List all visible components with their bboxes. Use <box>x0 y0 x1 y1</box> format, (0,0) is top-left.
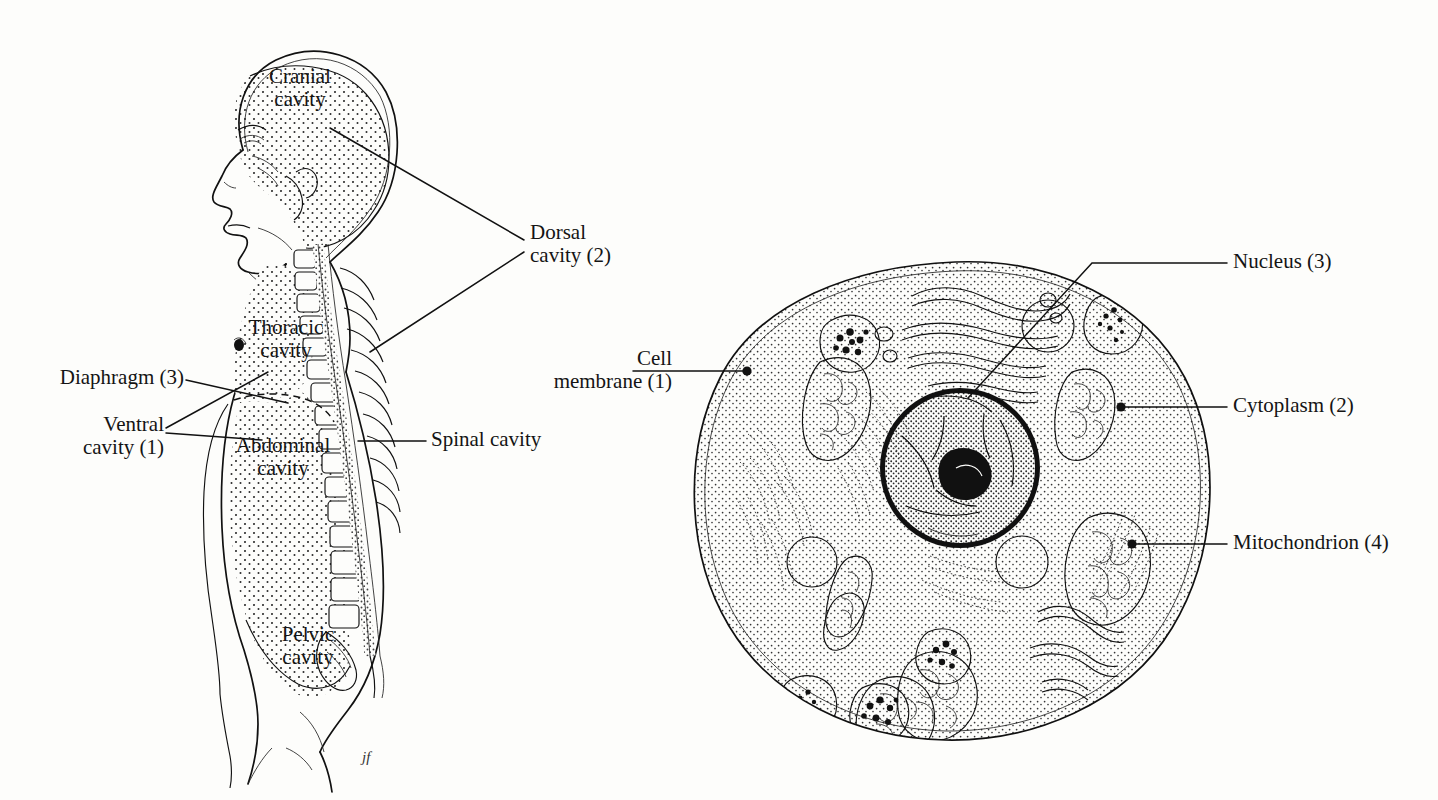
label-nucleus: Nucleus (3) <box>1233 249 1332 273</box>
pelvic-cavity-label-line2: cavity <box>282 645 334 669</box>
cranial-cavity-label-line2: cavity <box>274 87 326 111</box>
thoracic-cavity-label-line2: cavity <box>260 338 312 362</box>
ventral-cavity-label-line1: Ventral <box>103 412 164 436</box>
label-cranial-cavity: Cranial cavity <box>269 64 331 111</box>
thoracic-cavity-label-line1: Thoracic <box>249 315 324 339</box>
diagram-canvas: jf Cranial cavity <box>0 0 1438 800</box>
mitochondrion-anchor-dot <box>1127 539 1136 548</box>
cell-membrane-label-line1: Cell <box>637 346 672 370</box>
diaphragm-label: Diaphragm (3) <box>60 365 184 389</box>
ventral-cavity-label-line2: cavity (1) <box>83 435 164 459</box>
abdominal-cavity-label-line1: Abdominal <box>236 433 331 457</box>
abdominal-cavity-label-line2: cavity <box>257 456 309 480</box>
mitochondrion-label: Mitochondrion (4) <box>1233 530 1389 554</box>
cytoplasm-anchor-dot <box>1116 402 1125 411</box>
dorsal-cavity-label-line2: cavity (2) <box>530 243 611 267</box>
cranial-cavity-label-line1: Cranial <box>269 64 331 88</box>
spinal-cavity-label: Spinal cavity <box>431 427 542 451</box>
nucleus <box>880 388 1040 548</box>
cell-membrane-label-line2: membrane (1) <box>554 369 672 393</box>
pelvic-cavity-label-line1: Pelvic <box>282 622 335 646</box>
label-cytoplasm: Cytoplasm (2) <box>1233 393 1354 417</box>
label-mitochondrion: Mitochondrion (4) <box>1233 530 1389 554</box>
figure-root: jf Cranial cavity <box>0 0 1438 800</box>
cell-membrane-anchor-dot <box>742 366 751 375</box>
nucleus-label: Nucleus (3) <box>1233 249 1332 273</box>
artist-signature: jf <box>360 749 372 765</box>
label-spinal-cavity: Spinal cavity <box>431 427 542 451</box>
label-diaphragm: Diaphragm (3) <box>60 365 184 389</box>
cytoplasm-label: Cytoplasm (2) <box>1233 393 1354 417</box>
dorsal-cavity-label-line1: Dorsal <box>530 220 586 244</box>
label-pelvic-cavity: Pelvic cavity <box>282 622 335 669</box>
